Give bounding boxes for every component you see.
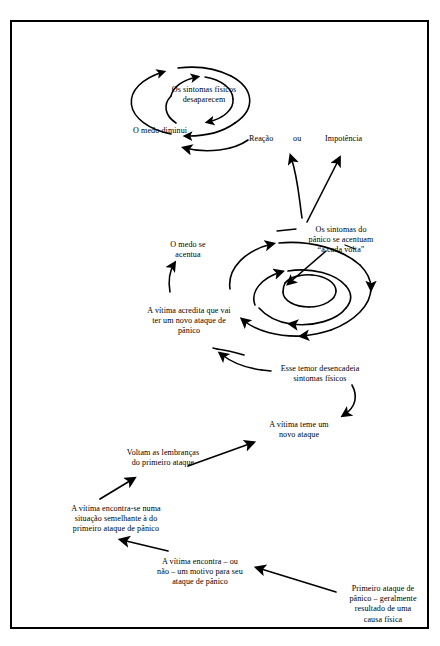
label-sintomas-acentuam: Os sintomas do pânico se acentuam “a cad… bbox=[292, 225, 390, 256]
arrow-up-to-medo-se-acentua bbox=[169, 264, 174, 292]
label-medo-se-acentua: O medo se acentua bbox=[157, 240, 219, 260]
arrow-primeiro-ataque-to-encontra-motivo bbox=[258, 568, 336, 592]
panic-cycle-diagram: Os sintomas físicos desaparecem O medo d… bbox=[0, 0, 440, 646]
arrow-encontra-motivo-to-encontra-se bbox=[122, 540, 168, 551]
arrow-esse-temor-to-vitima-acredita bbox=[221, 354, 271, 371]
spiral-middle-turn bbox=[254, 270, 351, 325]
arrow-encontra-se-to-voltam bbox=[100, 479, 133, 499]
arrow-vitima-teme-to-esse-temor bbox=[344, 385, 355, 415]
label-voltam-lembrancas: Voltam as lembranças do primeiro ataque bbox=[108, 448, 218, 468]
pointer-to-spiral-center bbox=[289, 251, 326, 283]
label-reacao: Reação bbox=[249, 134, 289, 144]
label-esse-temor: Esse temor desencadeia sintomas físicos bbox=[265, 364, 375, 384]
label-impotencia: Impotência bbox=[325, 134, 381, 144]
label-ou: ou bbox=[293, 134, 315, 144]
arrow-up-to-reacao bbox=[291, 157, 302, 218]
spiral-inner-turn bbox=[283, 275, 336, 307]
label-medo-diminui: O medo diminui bbox=[133, 126, 219, 136]
label-primeiro-ataque: Primeiro ataque de pânico – geralmente r… bbox=[339, 584, 427, 625]
arrow-reacao-to-medo-diminui bbox=[185, 140, 248, 151]
label-vitima-acredita: A vítima acredita que vai ter um novo at… bbox=[131, 306, 247, 337]
label-sintomas-desaparecem: Os sintomas físicos desaparecem bbox=[154, 85, 254, 105]
label-vitima-encontra-se: A vítima encontra-se numa situação semel… bbox=[49, 504, 183, 535]
arrow-up-to-impotencia bbox=[307, 159, 339, 222]
label-vitima-teme: A vítima teme um novo ataque bbox=[253, 420, 345, 440]
label-vitima-encontra-motivo: A vítima encontra – ou não – um motivo p… bbox=[140, 557, 260, 588]
arrow-to-vitima-acredita bbox=[213, 348, 244, 355]
spiral-outer-turn bbox=[230, 242, 371, 336]
